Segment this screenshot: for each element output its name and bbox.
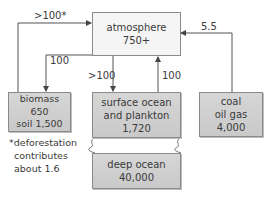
flux-label-atmosphere-to-ocean: >100 — [88, 70, 115, 82]
fossil-fuel-box: coal oil gas 4,000 — [199, 92, 263, 137]
atmosphere-name: atmosphere — [107, 21, 167, 34]
deforestation-footnote: *deforestation contributes about 1.6 — [9, 136, 77, 175]
flux-label-biomass-to-atmosphere: >100* — [34, 10, 66, 22]
deep-ocean-name: deep ocean — [107, 158, 165, 171]
arrow-fossil-to-atmosphere — [181, 33, 232, 92]
biomass-value: 650 — [30, 106, 48, 119]
fossil-line1: coal — [221, 95, 242, 108]
biomass-box: biomass 650 soil 1,500 — [8, 92, 71, 132]
biomass-name: biomass — [20, 93, 59, 106]
fossil-line2: oil gas — [215, 108, 248, 121]
atmosphere-value: 750+ — [123, 34, 150, 47]
footnote-line1: *deforestation — [9, 136, 77, 149]
soil-value: soil 1,500 — [16, 118, 62, 131]
surface-ocean-value: 1,720 — [122, 122, 151, 135]
footnote-line3: about 1.6 — [9, 162, 77, 175]
surface-ocean-line1: surface ocean — [101, 96, 171, 109]
atmosphere-box: atmosphere 750+ — [92, 12, 181, 56]
footnote-line2: contributes — [9, 149, 77, 162]
break-line-left — [89, 138, 95, 153]
surface-ocean-line2: and plankton — [104, 109, 170, 122]
break-line-right — [175, 138, 181, 153]
deep-ocean-box: deep ocean 40,000 — [92, 153, 181, 189]
flux-label-ocean-to-atmosphere: 100 — [162, 70, 181, 82]
surface-ocean-box: surface ocean and plankton 1,720 — [92, 92, 181, 138]
fossil-value: 4,000 — [217, 121, 246, 134]
flux-label-fossil-to-atmosphere: 5.5 — [201, 21, 217, 33]
flux-label-atmosphere-to-biomass: 100 — [50, 55, 69, 67]
deep-ocean-value: 40,000 — [119, 171, 154, 184]
